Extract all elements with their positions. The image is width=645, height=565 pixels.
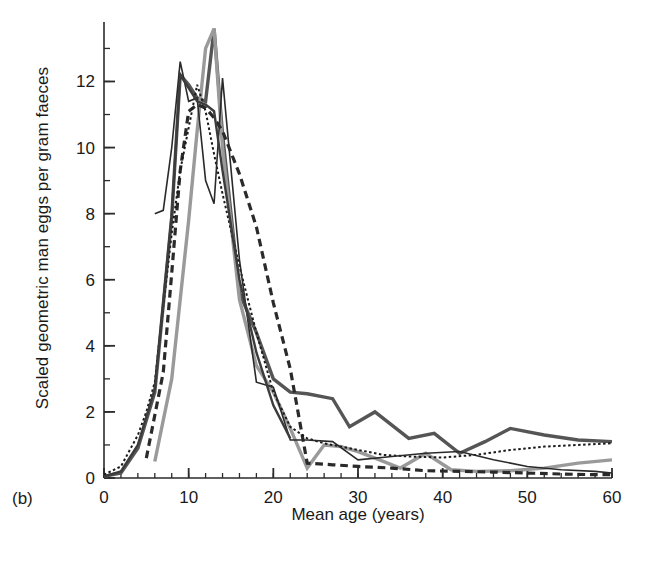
y-tick-label: 4 xyxy=(86,337,95,356)
y-tick-label: 2 xyxy=(86,403,95,422)
series-line xyxy=(104,85,612,475)
series-line xyxy=(155,62,612,473)
y-axis-label: Scaled geometric man eggs per gram faece… xyxy=(33,28,53,448)
figure-panel-b: Scaled geometric man eggs per gram faece… xyxy=(0,0,645,565)
series-line xyxy=(104,29,612,477)
panel-label: (b) xyxy=(12,489,33,509)
y-tick-label: 12 xyxy=(76,72,95,91)
series-line xyxy=(146,105,612,475)
chart-plot-area: 0102030405060024681012 xyxy=(0,0,645,565)
y-tick-label: 8 xyxy=(86,205,95,224)
series-layer xyxy=(104,29,612,477)
x-axis-label: Mean age (years) xyxy=(104,505,612,525)
y-tick-label: 0 xyxy=(86,469,95,488)
y-tick-label: 10 xyxy=(76,139,95,158)
y-tick-label: 6 xyxy=(86,271,95,290)
